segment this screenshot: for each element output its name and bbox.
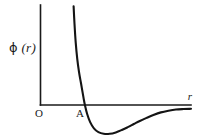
y-axis-label: ϕ (r) [9,41,36,54]
x-axis-label: r [188,91,192,102]
point-a-label: A [76,108,84,119]
phi-symbol: ϕ [9,40,18,55]
plot-canvas [0,0,198,140]
origin-label: O [35,108,43,119]
phi-argument: (r) [21,40,36,55]
potential-curve-path [74,6,191,134]
potential-energy-figure: ϕ (r) r O A [0,0,198,140]
